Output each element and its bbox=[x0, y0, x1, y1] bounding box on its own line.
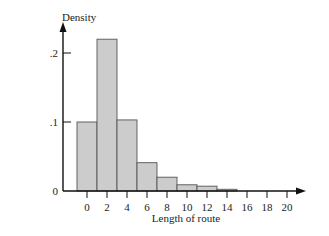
x-axis-arrow-icon bbox=[296, 188, 306, 195]
y-axis-label: Density bbox=[62, 11, 97, 23]
x-tick-label: 2 bbox=[104, 201, 110, 213]
x-axis-label: Length of route bbox=[152, 212, 221, 224]
y-axis-arrow-icon bbox=[60, 22, 67, 32]
histogram-bar bbox=[97, 39, 117, 191]
y-tick-label: 0 bbox=[53, 185, 59, 197]
y-tick-label: .1 bbox=[50, 116, 58, 128]
x-tick-label: 20 bbox=[282, 201, 294, 213]
y-ticks: 0.1.2 bbox=[50, 47, 71, 197]
x-tick-label: 16 bbox=[242, 201, 254, 213]
x-ticks: 02468101214161820 bbox=[84, 191, 293, 213]
x-tick-label: 18 bbox=[262, 201, 274, 213]
histogram-bar bbox=[77, 122, 97, 191]
histogram-bar bbox=[137, 163, 157, 191]
histogram-bar bbox=[157, 177, 177, 191]
histogram-bars bbox=[77, 39, 237, 191]
x-tick-label: 4 bbox=[124, 201, 130, 213]
x-tick-label: 0 bbox=[84, 201, 90, 213]
density-histogram: 0.1.2 02468101214161820 Density Length o… bbox=[0, 0, 329, 236]
histogram-bar bbox=[117, 120, 137, 191]
histogram-bar bbox=[197, 186, 217, 191]
x-tick-label: 6 bbox=[144, 201, 150, 213]
histogram-bar bbox=[177, 185, 197, 191]
y-tick-label: .2 bbox=[50, 47, 58, 59]
x-tick-label: 14 bbox=[222, 201, 234, 213]
